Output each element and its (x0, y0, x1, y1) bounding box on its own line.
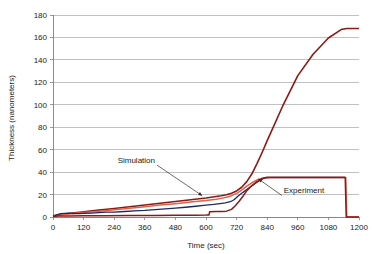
x-tick-label-720: 720 (230, 223, 244, 232)
annotation-leader-1 (258, 179, 282, 196)
y-tick-label-180: 180 (34, 11, 48, 20)
x-tick-label-840: 840 (261, 223, 275, 232)
y-tick-label-80: 80 (38, 123, 47, 132)
x-tick-label-1080: 1080 (320, 223, 338, 232)
x-tick-label-600: 600 (199, 223, 213, 232)
x-tick-label-120: 120 (77, 223, 91, 232)
annotations-group: SimulationExperiment (118, 156, 325, 196)
y-tick-label-20: 20 (38, 191, 47, 200)
thickness-vs-time-chart: 020406080100120140160180 012024036048060… (0, 0, 378, 254)
x-axis-title: Time (sec) (187, 241, 225, 250)
chart-container: 020406080100120140160180 012024036048060… (0, 0, 378, 254)
y-tick-label-40: 40 (38, 168, 47, 177)
x-axis-tick-labels: 012024036048060072084096010801200 (51, 223, 369, 232)
y-tick-label-120: 120 (34, 78, 48, 87)
x-tick-label-240: 240 (108, 223, 122, 232)
y-tick-label-60: 60 (38, 146, 47, 155)
annotation-arrowhead-0 (198, 192, 202, 196)
y-tick-label-140: 140 (34, 56, 48, 65)
y-tick-label-160: 160 (34, 33, 48, 42)
x-tick-label-360: 360 (138, 223, 152, 232)
y-axis-tick-labels: 020406080100120140160180 (34, 11, 48, 222)
x-tick-label-1200: 1200 (350, 223, 368, 232)
y-tick-label-100: 100 (34, 101, 48, 110)
annotation-label-experiment: Experiment (284, 186, 325, 195)
annotation-leader-0 (157, 165, 202, 196)
y-tick-label-0: 0 (43, 213, 48, 222)
x-tick-label-960: 960 (291, 223, 305, 232)
x-tick-label-0: 0 (51, 223, 56, 232)
y-axis-title: Thickness (nanometers) (7, 75, 16, 161)
annotation-label-simulation: Simulation (118, 156, 155, 165)
x-tick-label-480: 480 (169, 223, 183, 232)
